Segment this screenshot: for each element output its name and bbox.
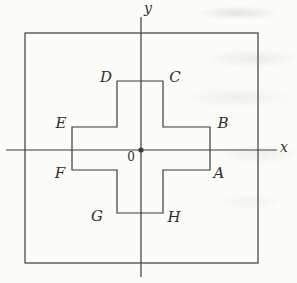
vertex-label-f: F <box>54 164 66 182</box>
vertex-label-c: C <box>169 68 181 86</box>
vertex-label-g: G <box>91 207 103 225</box>
vertex-label-d: D <box>99 68 112 86</box>
origin-label: 0 <box>127 150 135 164</box>
vertex-label-a: A <box>212 164 225 182</box>
vertex-label-e: E <box>55 114 67 132</box>
geometry-figure: y x 0 D C E B F A G H <box>0 0 297 283</box>
paper-background <box>0 0 297 283</box>
x-axis-label: x <box>280 139 288 155</box>
vertex-label-h: H <box>166 208 181 226</box>
origin-dot <box>138 147 143 152</box>
figure-canvas: y x 0 D C E B F A G H <box>0 0 297 283</box>
vertex-label-b: B <box>216 114 228 132</box>
y-axis-label: y <box>143 0 153 16</box>
